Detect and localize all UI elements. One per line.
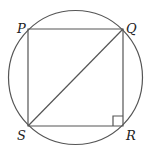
vertex-label-s: S: [17, 128, 26, 143]
right-angle-marker-r: [113, 116, 123, 126]
diagonal-sq: [28, 29, 123, 126]
geometry-diagram: P Q S R: [0, 0, 148, 152]
vertex-label-q: Q: [126, 21, 137, 36]
vertex-label-p: P: [16, 21, 26, 36]
vertex-label-r: R: [125, 128, 136, 143]
